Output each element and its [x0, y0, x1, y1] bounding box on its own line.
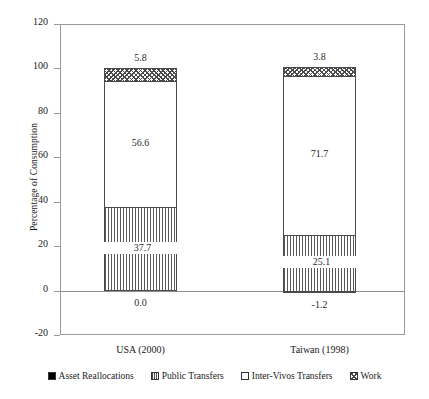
legend-label: Public Transfers: [162, 371, 224, 381]
legend-swatch-icon: [241, 372, 249, 380]
segment-asset-reallocations[interactable]: [283, 291, 356, 294]
x-axis-label-usa: USA (2000): [71, 344, 211, 355]
value-label-taiwan-asset-reallocations: -1.2: [280, 299, 360, 310]
value-label-taiwan-work: 3.8: [280, 51, 360, 62]
legend-item-asset-reallocations[interactable]: Asset Reallocations: [48, 371, 134, 381]
legend-swatch-icon: [350, 372, 358, 380]
value-label-taiwan-public-transfers: 25.1: [280, 256, 364, 268]
value-label-usa-work: 5.8: [101, 52, 181, 63]
y-tick-label: 40: [38, 194, 48, 205]
legend-label: Asset Reallocations: [59, 371, 134, 381]
y-tick-label: 100: [33, 60, 48, 71]
legend-swatch-icon: [48, 372, 56, 380]
value-label-usa-public-transfers: 37.7: [101, 242, 185, 254]
legend-item-inter-vivos-transfers[interactable]: Inter-Vivos Transfers: [241, 371, 333, 381]
x-axis-label-taiwan: Taiwan (1998): [250, 344, 390, 355]
stacked-bar-chart: Percentage of Consumption 12010080604020…: [0, 0, 429, 399]
legend-label: Inter-Vivos Transfers: [252, 371, 333, 381]
y-tick-label: 60: [38, 149, 48, 160]
bar-usa-2000[interactable]: [104, 68, 177, 290]
y-tick-label: -20: [35, 327, 48, 338]
segment-work[interactable]: [283, 67, 356, 75]
value-label-usa-asset-reallocations: 0.0: [101, 297, 181, 308]
y-tick-mark: [54, 335, 60, 336]
legend-label: Work: [361, 371, 382, 381]
y-tick-label: 20: [38, 238, 48, 249]
segment-work[interactable]: [104, 68, 177, 81]
value-label-taiwan-inter-vivos: 71.7: [280, 148, 360, 159]
y-tick-label: 120: [33, 16, 48, 27]
legend-item-public-transfers[interactable]: Public Transfers: [151, 371, 224, 381]
legend-item-work[interactable]: Work: [350, 371, 382, 381]
chart-legend: Asset Reallocations Public Transfers Int…: [0, 371, 429, 381]
y-tick-label: 0: [43, 283, 48, 294]
value-label-usa-inter-vivos: 56.6: [101, 137, 181, 148]
legend-swatch-icon: [151, 372, 159, 380]
y-tick-label: 80: [38, 105, 48, 116]
